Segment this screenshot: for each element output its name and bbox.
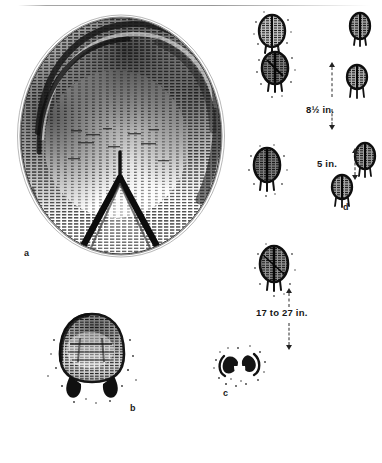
measure-guide-leap [282, 288, 296, 350]
measure-guide-stride [325, 62, 339, 132]
trail-track-2 [252, 46, 300, 98]
figure-label-d: d [343, 203, 349, 212]
measure-guide-straddle [348, 148, 362, 180]
illustration-plate: a [0, 0, 382, 463]
measure-label-straddle: 5 in. [317, 159, 337, 169]
figure-label-b: b [130, 404, 136, 413]
figure-label-c: c [223, 389, 228, 398]
measure-label-stride: 8½ in. [306, 105, 334, 115]
trail-track-3 [244, 142, 292, 198]
page-top-rule [18, 5, 370, 6]
plate-caption [0, 455, 382, 463]
figure-label-a: a [24, 249, 29, 258]
trail-track-d2 [340, 62, 374, 102]
figure-a-track [8, 12, 238, 264]
figure-c-track [210, 342, 272, 390]
figure-b-track [40, 310, 150, 405]
measure-label-leap: 17 to 27 in. [256, 308, 308, 318]
trail-track-d1 [343, 10, 377, 50]
